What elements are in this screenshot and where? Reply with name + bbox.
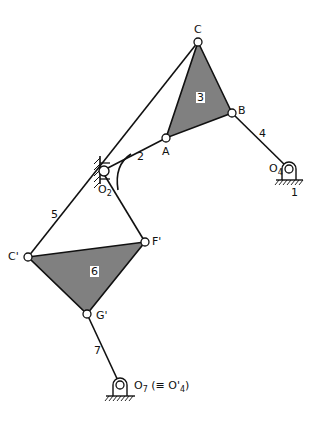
link-2 [102, 138, 166, 171]
label-o2: O2 [98, 184, 112, 198]
label-f-prime: F' [152, 236, 161, 247]
label-link-5: 5 [51, 209, 58, 220]
label-link-4: 4 [259, 128, 266, 139]
link-2-arc [117, 154, 131, 190]
label-o4: O4 [269, 163, 283, 177]
link-6-triangle [28, 242, 145, 314]
link-5 [28, 42, 198, 257]
label-link-3: 3 [196, 92, 205, 103]
joint-f-prime [141, 238, 149, 246]
label-link-1: 1 [291, 187, 298, 198]
joint-c [194, 38, 202, 46]
joint-o7 [116, 381, 124, 389]
label-link-7: 7 [94, 345, 101, 356]
label-c: C [194, 24, 202, 35]
joint-o4 [285, 165, 293, 173]
link-3-triangle [166, 42, 232, 138]
label-b: B [238, 105, 246, 116]
mechanism-diagram [0, 0, 322, 428]
joint-a [162, 134, 170, 142]
label-link-2: 2 [137, 151, 144, 162]
joint-b [228, 109, 236, 117]
label-o7: O7 (≡ O'4) [134, 380, 189, 394]
link-o2-f [102, 171, 145, 242]
joint-o2 [99, 166, 109, 176]
link-7 [87, 314, 120, 385]
link-4 [232, 113, 289, 169]
joint-g-prime [83, 310, 91, 318]
label-c-prime: C' [8, 251, 19, 262]
joint-c-prime [24, 253, 32, 261]
label-a: A [162, 146, 170, 157]
label-g-prime: G' [96, 310, 108, 321]
label-link-6: 6 [90, 266, 99, 277]
